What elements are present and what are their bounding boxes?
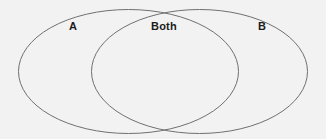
venn-diagram: A Both B <box>0 0 326 139</box>
set-b-label: B <box>258 21 266 32</box>
intersection-label: Both <box>151 21 177 32</box>
set-a-label: A <box>69 21 77 32</box>
